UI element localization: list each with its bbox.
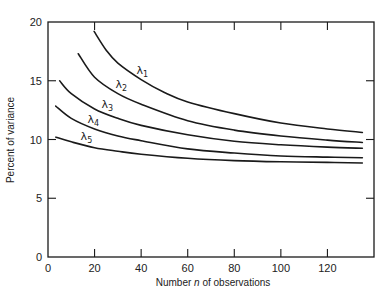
curve-lambda-2 xyxy=(78,54,362,143)
curve-label-lambda-4: λ4 xyxy=(88,113,100,128)
curve-lambda-1 xyxy=(94,31,362,132)
x-tick-label: 80 xyxy=(228,262,240,274)
curve-label-lambda-3: λ3 xyxy=(102,98,114,113)
x-axis-title-after: of observations xyxy=(200,277,271,288)
y-tick-label: 0 xyxy=(36,251,42,263)
x-axis-title-before: Number xyxy=(156,277,194,288)
y-axis-title: Percent of variance xyxy=(5,96,16,183)
x-tick-label: 100 xyxy=(272,262,290,274)
chart: 020406080100120 05101520 λ1λ2λ3λ4λ5 Numb… xyxy=(0,0,388,297)
x-axis-title: Number n of observations xyxy=(156,277,271,288)
curve-lambda-4 xyxy=(56,106,363,158)
x-tick-label: 60 xyxy=(182,262,194,274)
curve-label-lambda-5: λ5 xyxy=(81,130,93,145)
x-tick-label: 40 xyxy=(135,262,147,274)
y-tick-label: 15 xyxy=(30,75,42,87)
curve-lambda-5 xyxy=(56,137,362,163)
y-tick-label: 10 xyxy=(30,134,42,146)
x-axis-ticks: 020406080100120 xyxy=(45,22,337,274)
curve-labels: λ1λ2λ3λ4λ5 xyxy=(81,64,148,145)
curve-label-lambda-1: λ1 xyxy=(137,64,149,79)
y-tick-label: 20 xyxy=(30,16,42,28)
y-tick-label: 5 xyxy=(36,192,42,204)
x-tick-label: 20 xyxy=(88,262,100,274)
curve-label-lambda-2: λ2 xyxy=(116,78,128,93)
x-tick-label: 0 xyxy=(45,262,51,274)
x-tick-label: 120 xyxy=(318,262,336,274)
curve-lambda-3 xyxy=(60,81,363,149)
